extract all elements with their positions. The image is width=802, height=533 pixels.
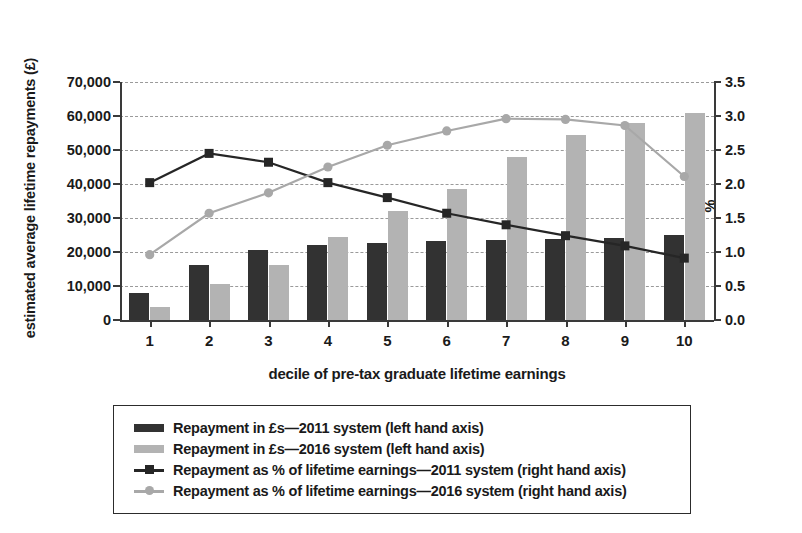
x-tick-label: 8 — [561, 332, 569, 349]
y-axis-title-left: estimated average lifetime repayments (£… — [22, 28, 38, 368]
y-tick-label-left: 20,000 — [67, 244, 111, 260]
y-tick-label-right: 0.5 — [725, 278, 745, 294]
y-tick-mark-left — [113, 319, 120, 321]
line-marker-circle — [383, 141, 392, 150]
y-tick-label-right: 3.0 — [725, 108, 745, 124]
line-marker-circle — [502, 114, 511, 123]
line-marker-circle — [561, 115, 570, 124]
y-tick-label-right: 1.5 — [725, 210, 745, 226]
x-tick-label: 10 — [676, 332, 693, 349]
left-axis-spine — [120, 82, 122, 320]
y-tick-label-left: 0 — [103, 312, 111, 328]
x-tick-label: 4 — [324, 332, 332, 349]
x-tick-label: 9 — [621, 332, 629, 349]
y-tick-label-right: 0.0 — [725, 312, 745, 328]
x-tick-label: 5 — [383, 332, 391, 349]
legend-item[interactable]: Repayment in £s—2011 system (left hand a… — [134, 417, 676, 438]
line-marker-square — [205, 149, 214, 158]
legend-item[interactable]: Repayment as % of lifetime earnings—2011… — [134, 459, 676, 480]
line-marker-square — [620, 241, 629, 250]
x-axis-title: decile of pre-tax graduate lifetime earn… — [120, 365, 714, 382]
y-tick-mark-left — [113, 217, 120, 219]
line-marker-square — [561, 231, 570, 240]
line-marker-square — [502, 220, 511, 229]
chart-legend: Repayment in £s—2011 system (left hand a… — [113, 405, 691, 514]
swatch-box — [134, 445, 164, 453]
y-tick-label-left: 60,000 — [67, 108, 111, 124]
x-tick-label: 3 — [264, 332, 272, 349]
y-tick-label-left: 50,000 — [67, 142, 111, 158]
swatch-marker — [145, 465, 154, 474]
line-marker-square — [442, 209, 451, 218]
line-series — [150, 119, 685, 255]
line-marker-circle-grey-icon — [134, 480, 164, 501]
line-marker-circle — [205, 209, 214, 218]
line-marker-square — [145, 178, 154, 187]
legend-item-label: Repayment as % of lifetime earnings—2016… — [173, 483, 627, 499]
y-tick-mark-left — [113, 149, 120, 151]
line-marker-circle — [680, 172, 689, 181]
x-tick-label: 2 — [205, 332, 213, 349]
line-marker-circle — [620, 121, 629, 130]
y-tick-label-left: 30,000 — [67, 210, 111, 226]
legend-item-label: Repayment as % of lifetime earnings—2011… — [173, 462, 626, 478]
y-tick-label-left: 70,000 — [67, 74, 111, 90]
chart-figure: estimated average lifetime repayments (£… — [0, 0, 802, 533]
legend-item-label: Repayment in £s—2011 system (left hand a… — [173, 420, 484, 436]
y-tick-mark-left — [113, 251, 120, 253]
bar-swatch-grey-icon — [134, 438, 164, 459]
x-tick-label: 6 — [443, 332, 451, 349]
y-tick-label-left: 40,000 — [67, 176, 111, 192]
swatch-marker — [145, 486, 154, 495]
line-marker-circle — [145, 250, 154, 259]
legend-item-label: Repayment in £s—2016 system (left hand a… — [173, 441, 484, 457]
x-axis-spine — [120, 320, 714, 322]
y-tick-label-right: 2.5 — [725, 142, 745, 158]
y-tick-label-right: 2.0 — [725, 176, 745, 192]
line-marker-square — [680, 254, 689, 263]
plot-area: 010,00020,00030,00040,00050,00060,00070,… — [120, 82, 714, 320]
line-marker-circle — [264, 188, 273, 197]
y-tick-mark-left — [113, 81, 120, 83]
line-marker-square — [264, 158, 273, 167]
legend-item[interactable]: Repayment in £s—2016 system (left hand a… — [134, 438, 676, 459]
line-marker-circle — [323, 162, 332, 171]
x-tick-label: 1 — [146, 332, 154, 349]
y-tick-label-right: 1.0 — [725, 244, 745, 260]
x-tick-label: 7 — [502, 332, 510, 349]
y-tick-label-left: 10,000 — [67, 278, 111, 294]
line-marker-square — [383, 193, 392, 202]
y-tick-label-right: 3.5 — [725, 74, 745, 90]
lines-layer — [120, 82, 714, 320]
y-tick-mark-left — [113, 115, 120, 117]
bar-swatch-dark-icon — [134, 417, 164, 438]
right-axis-spine — [714, 82, 716, 320]
y-tick-mark-left — [113, 285, 120, 287]
legend-item[interactable]: Repayment as % of lifetime earnings—2016… — [134, 480, 676, 501]
swatch-box — [134, 424, 164, 432]
line-marker-square-dark-icon — [134, 459, 164, 480]
y-tick-mark-left — [113, 183, 120, 185]
line-marker-square — [323, 178, 332, 187]
line-marker-circle — [442, 126, 451, 135]
